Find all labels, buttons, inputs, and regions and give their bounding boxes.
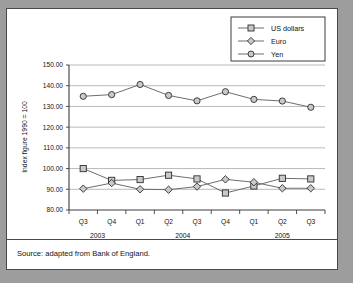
- legend-label: US dollars: [271, 24, 305, 33]
- data-point-marker: [279, 185, 286, 192]
- data-point-marker: [165, 92, 171, 98]
- x-axis-tick-label: Q2: [278, 218, 287, 226]
- gridlines-group: [69, 65, 325, 189]
- data-point-marker: [137, 176, 143, 182]
- y-axis-title: Index figure 1990 = 100: [21, 101, 29, 173]
- data-point-marker: [194, 98, 200, 104]
- data-point-marker: [165, 186, 172, 193]
- y-axis-tick-labels-group: 80.0090.00100.00110.00120.00130.00140.00…: [43, 61, 64, 213]
- data-point-marker: [279, 175, 285, 181]
- x-axis-tick-labels-group: Q3Q4Q1Q2Q3Q4Q1Q2Q3: [79, 218, 316, 226]
- legend-label: Euro: [271, 37, 286, 46]
- data-point-marker: [308, 104, 314, 110]
- x-axis-tick-label: Q2: [164, 218, 173, 226]
- x-axis-group-labels: 200320042005: [90, 232, 290, 239]
- data-point-marker: [80, 185, 87, 192]
- data-point-marker: [308, 176, 314, 182]
- data-point-marker: [80, 93, 86, 99]
- data-point-marker: [307, 185, 314, 192]
- y-axis-tick-label: 100.00: [43, 165, 64, 172]
- series-us-dollars: [80, 165, 314, 196]
- y-axis-tick-label: 150.00: [43, 61, 64, 68]
- source-note: Source: adapted from Bank of England.: [17, 249, 150, 258]
- data-point-marker: [194, 176, 200, 182]
- chart-legend[interactable]: US dollarsEuroYen: [231, 17, 325, 61]
- x-axis-tick-label: Q4: [107, 218, 116, 226]
- y-axis-tick-label: 110.00: [43, 144, 63, 151]
- legend-label: Yen: [271, 50, 283, 59]
- data-point-marker: [279, 98, 285, 104]
- series-layer: [80, 81, 315, 196]
- data-point-marker: [80, 165, 86, 171]
- data-point-marker: [222, 89, 228, 95]
- legend-marker-square: [248, 25, 254, 31]
- data-point-marker: [222, 190, 228, 196]
- data-point-marker: [222, 176, 229, 183]
- figure-panel: 80.0090.00100.00110.00120.00130.00140.00…: [6, 8, 338, 270]
- x-axis-tick-label: Q1: [136, 218, 145, 226]
- data-point-marker: [136, 186, 143, 193]
- x-axis-tick-label: Q3: [306, 218, 315, 226]
- legend-item-us-dollars[interactable]: US dollars: [238, 24, 305, 33]
- x-axis-ticks-group: [69, 210, 325, 214]
- source-bar: Source: adapted from Bank of England.: [7, 239, 337, 269]
- data-point-marker: [165, 172, 171, 178]
- line-chart-svg: 80.0090.00100.00110.00120.00130.00140.00…: [7, 9, 337, 241]
- x-axis-tick-label: Q3: [193, 218, 202, 226]
- y-axis-tick-label: 130.00: [43, 103, 64, 110]
- x-axis-group-label: 2005: [275, 232, 290, 239]
- y-axis-tick-label: 90.00: [46, 186, 63, 193]
- x-axis-tick-label: Q3: [79, 218, 88, 226]
- data-point-marker: [251, 96, 257, 102]
- y-axis-tick-label: 80.00: [46, 206, 63, 213]
- x-axis-tick-label: Q4: [221, 218, 230, 226]
- x-axis-tick-label: Q1: [249, 218, 258, 226]
- legend-marker-circle: [248, 51, 254, 57]
- chart-plot-area: 80.0090.00100.00110.00120.00130.00140.00…: [7, 9, 337, 241]
- data-point-marker: [109, 92, 115, 98]
- y-axis-tick-label: 120.00: [43, 124, 64, 131]
- y-axis-tick-label: 140.00: [43, 82, 64, 89]
- x-axis-group-label: 2003: [90, 232, 105, 239]
- x-axis-group-label: 2004: [175, 232, 190, 239]
- data-point-marker: [137, 81, 143, 87]
